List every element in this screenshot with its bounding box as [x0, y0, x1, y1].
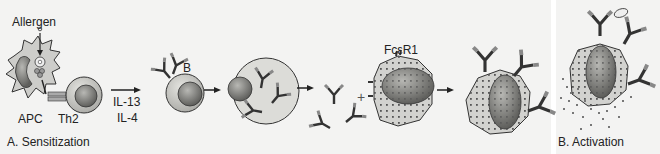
th2-cell	[66, 77, 102, 113]
apc-cell	[6, 36, 60, 98]
il4-label: IL-4	[117, 112, 138, 124]
plus-sign: +	[357, 90, 365, 104]
mast-cell-sensitized	[466, 47, 555, 134]
arrow-4	[437, 87, 454, 93]
b-cell	[151, 53, 204, 112]
fcer1-label: FcεR1	[384, 44, 418, 56]
panel-a-title: A. Sensitization	[7, 136, 90, 148]
apc-label: APC	[18, 113, 43, 125]
plasma-cell	[228, 58, 299, 124]
b-cell-label: B	[183, 62, 191, 74]
il13-label: IL-13	[113, 96, 140, 108]
panel-b-title: B. Activation	[558, 136, 624, 148]
mast-cell-resting	[368, 50, 434, 126]
th2-label: Th2	[58, 113, 79, 125]
arrow-3	[297, 85, 314, 91]
allergen-label: Allergen	[12, 16, 56, 28]
arrow-2	[204, 87, 221, 93]
diagram-canvas	[0, 0, 660, 154]
mast-cell-activated	[570, 7, 655, 106]
arrow-1	[111, 87, 141, 93]
